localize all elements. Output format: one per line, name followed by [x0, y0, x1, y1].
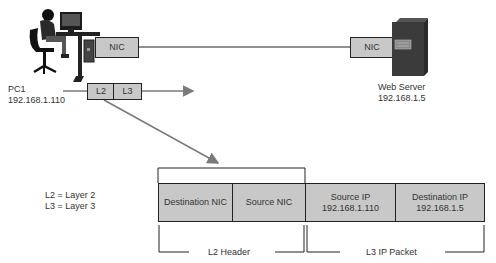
server-name: Web Server — [378, 82, 426, 93]
server-nic-box: NIC — [350, 37, 394, 58]
pc-ip: 192.168.1.110 — [8, 95, 65, 106]
legend-l2: L2 = Layer 2 — [45, 190, 95, 201]
l2-header-label: L2 Header — [208, 247, 250, 258]
field-destination-ip: Destination IP 192.168.1.5 — [396, 184, 484, 221]
pc-nic-label: NIC — [109, 42, 125, 52]
l3-label: L3 — [122, 86, 132, 96]
workstation-user-icon — [28, 6, 100, 82]
legend: L2 = Layer 2 L3 = Layer 3 — [45, 190, 95, 212]
server-label: Web Server 192.168.1.5 — [378, 82, 426, 104]
pc-nic-box: NIC — [95, 37, 139, 58]
field-destination-nic: Destination NIC — [159, 184, 233, 221]
l2-label: L2 — [96, 86, 106, 96]
server-tower-icon — [392, 18, 428, 76]
server-ip: 192.168.1.5 — [378, 93, 426, 104]
server-nic-label: NIC — [364, 42, 380, 52]
pc-label: PC1 192.168.1.110 — [8, 84, 65, 106]
pc-name: PC1 — [8, 84, 65, 95]
field-source-ip: Source IP 192.168.1.110 — [306, 184, 396, 221]
field-source-nic: Source NIC — [233, 184, 306, 221]
l3-packet-label: L3 IP Packet — [366, 247, 417, 258]
frame-diagram: Destination NIC Source NIC Source IP 192… — [158, 183, 485, 222]
expand-arrow — [104, 100, 218, 163]
l3-box: L3 — [113, 83, 142, 100]
l2-box: L2 — [87, 83, 115, 100]
legend-l3: L3 = Layer 3 — [45, 201, 95, 212]
